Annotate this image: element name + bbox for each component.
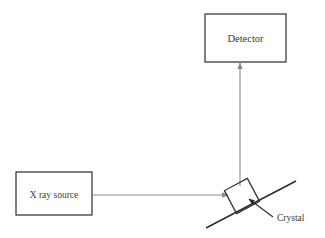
xray-source-label: X ray source	[30, 190, 79, 200]
crystal-leader-line	[249, 199, 273, 217]
xray-diffraction-diagram: Detector X ray source Crystal	[0, 0, 325, 238]
diagram-root: Detector X ray source Crystal	[0, 0, 325, 238]
detector-label: Detector	[227, 33, 264, 44]
crystal-shape	[224, 178, 259, 213]
crystal-label: Crystal	[277, 213, 305, 223]
